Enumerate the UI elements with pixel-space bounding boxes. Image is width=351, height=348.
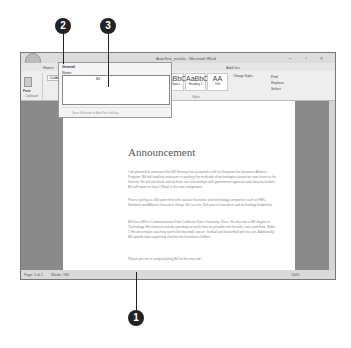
style-preview: AA — [208, 75, 227, 82]
callout-line-3 — [108, 32, 109, 87]
clipboard-group: Paste Clipboard — [21, 73, 43, 99]
page-count: Page: 1 of 1 — [24, 273, 43, 277]
zoom-level[interactable]: 100% — [291, 273, 300, 277]
style-preview: AaBbC — [186, 75, 205, 82]
autotext-dropdown: General Name Bill Save Selection to Auto… — [58, 62, 172, 118]
paragraph: Bill has a BS in Communications from Cal… — [128, 220, 276, 240]
vertical-scrollbar[interactable] — [329, 101, 335, 271]
paragraph: Prior to joining us, Bill spent time wit… — [128, 198, 276, 208]
status-bar: Page: 1 of 1 Words: 183 100% — [21, 270, 335, 279]
change-styles-button[interactable]: Change Styles — [233, 74, 253, 78]
window-title: AutoText_results - Microsoft Word — [156, 56, 216, 61]
callout-2: 2 — [55, 18, 71, 34]
select-button[interactable]: Select — [271, 86, 284, 92]
paragraph: Please join me in congratulating Bill on… — [128, 257, 276, 262]
style-name: Heading 1 — [189, 82, 203, 86]
autotext-entry[interactable]: Bill — [62, 75, 170, 105]
style-name: Title — [215, 82, 221, 86]
save-selection-to-gallery[interactable]: Save Selection to AutoText Gallery... — [62, 107, 170, 115]
dropdown-header: General — [62, 65, 75, 69]
paste-icon[interactable] — [24, 77, 32, 87]
word-count: Words: 183 — [51, 273, 69, 277]
callout-3: 3 — [100, 18, 116, 34]
clipboard-label: Clipboard — [21, 94, 42, 98]
entry-label: Bill — [96, 77, 100, 81]
paragraph: I am pleased to announce that Bill Kenne… — [128, 170, 276, 190]
style-title[interactable]: AATitle — [207, 73, 228, 91]
style-heading-1[interactable]: AaBbCHeading 1 — [185, 73, 206, 91]
tab-add-ins[interactable]: Add-Ins — [226, 65, 240, 70]
document-heading: Announcement — [128, 146, 195, 158]
editing-group: Find Replace Select — [271, 74, 284, 92]
callout-line-2 — [63, 32, 64, 64]
paste-label[interactable]: Paste — [23, 89, 31, 93]
window-controls[interactable]: – ▫ × — [289, 55, 329, 61]
tab-home[interactable]: Home — [43, 65, 54, 70]
callout-1: 1 — [128, 310, 144, 326]
callout-line-1 — [136, 272, 137, 312]
